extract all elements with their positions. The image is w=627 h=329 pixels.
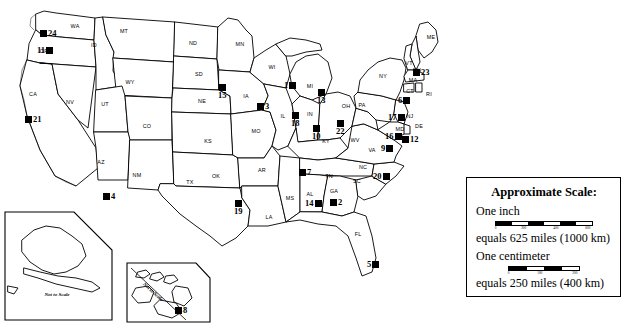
state-label-az: AZ — [97, 159, 105, 165]
marker-number: 2 — [338, 198, 342, 207]
scale-tick: 400 — [553, 226, 558, 230]
marker-square-icon — [40, 30, 47, 37]
site-marker-7[interactable]: 7 — [299, 168, 311, 177]
scale-bar-cm-ticks: 0100200 — [508, 271, 580, 275]
state-label-ia: IA — [243, 93, 249, 99]
marker-number: 18 — [291, 119, 300, 127]
site-marker-12[interactable]: 12 — [402, 135, 419, 144]
state-label-nj: NJ — [407, 113, 414, 119]
marker-number: 16 — [385, 132, 394, 141]
marker-number: 15 — [218, 91, 227, 99]
site-marker-11[interactable]: 11 — [37, 46, 53, 55]
site-marker-13[interactable]: 13 — [317, 89, 326, 104]
state-label-pa: PA — [358, 102, 365, 108]
marker-square-icon — [46, 47, 53, 54]
state-label-sc: SC — [353, 178, 361, 184]
site-marker-19[interactable]: 19 — [234, 200, 243, 215]
marker-number: 23 — [421, 68, 430, 77]
state-label-il: IL — [281, 113, 286, 119]
state-label-vt: VT — [405, 60, 413, 66]
state-label-ms: MS — [286, 195, 295, 201]
marker-number: 21 — [33, 115, 42, 124]
site-marker-14[interactable]: 14 — [305, 199, 322, 208]
state-label-wv: WV — [350, 137, 359, 143]
marker-number: 6 — [398, 96, 402, 105]
state-label-ks: KS — [204, 138, 212, 144]
site-marker-3[interactable]: 3 — [257, 102, 269, 111]
site-marker-21[interactable]: 21 — [25, 115, 42, 124]
scale-bar-inch: 0200400600 — [495, 221, 593, 230]
map-figure: WAORCANVIDMTWYUTAZNMCONDSDNEKSOKTXMNIAMO… — [0, 0, 627, 329]
site-marker-5[interactable]: 5 — [367, 260, 379, 269]
state-label-ma: MA — [409, 77, 418, 83]
scale-tick: 200 — [521, 226, 526, 230]
site-marker-16[interactable]: 16 — [385, 132, 402, 141]
marker-number: 7 — [307, 168, 311, 177]
site-marker-9[interactable]: 9 — [381, 144, 393, 153]
state-label-nd: ND — [189, 40, 197, 46]
state-label-nc: NC — [359, 164, 367, 170]
state-label-ar: AR — [258, 167, 266, 173]
marker-square-icon — [372, 261, 379, 268]
state-label-la: LA — [266, 214, 273, 220]
marker-square-icon — [299, 169, 306, 176]
marker-number: 17 — [388, 113, 397, 122]
hawaii-inset: Not to Scale — [127, 263, 210, 322]
scale-tick: 200 — [572, 271, 577, 275]
state-label-al: AL — [307, 191, 314, 197]
site-marker-1[interactable]: 1 — [284, 81, 296, 90]
marker-number: 24 — [48, 29, 57, 38]
site-marker-22[interactable]: 22 — [336, 120, 345, 135]
marker-square-icon — [175, 307, 182, 314]
state-label-tx: TX — [186, 179, 193, 185]
us-map-svg: WAORCANVIDMTWYUTAZNMCONDSDNEKSOKTXMNIAMO… — [0, 0, 440, 329]
marker-number: 19 — [234, 207, 243, 215]
marker-square-icon — [398, 114, 405, 121]
state-label-ut: UT — [101, 101, 109, 107]
state-label-ct: CT — [406, 88, 414, 94]
state-label-mo: MO — [251, 128, 260, 134]
marker-number: 1 — [284, 81, 288, 90]
state-label-wy: WY — [125, 79, 134, 85]
state-label-mn: MN — [236, 41, 245, 47]
state-label-nm: NM — [133, 172, 142, 178]
site-marker-24[interactable]: 24 — [40, 29, 57, 38]
alaska-note: Not to Scale — [44, 292, 71, 297]
marker-square-icon — [403, 97, 410, 104]
site-marker-20[interactable]: 20 — [373, 172, 390, 181]
site-marker-4[interactable]: 4 — [103, 192, 115, 201]
site-marker-18[interactable]: 18 — [291, 112, 300, 127]
state-label-ne: NE — [198, 98, 206, 104]
marker-number: 22 — [336, 127, 345, 135]
legend-cm-equals: equals 250 miles (400 km) — [476, 276, 612, 291]
state-label-ca: CA — [29, 91, 37, 97]
marker-square-icon — [25, 116, 32, 123]
scale-tick: 100 — [537, 271, 542, 275]
state-label-oh: OH — [342, 103, 351, 109]
scale-bar-cm: 0100200 — [508, 266, 580, 275]
state-label-ri: RI — [426, 91, 432, 97]
us-map: WAORCANVIDMTWYUTAZNMCONDSDNEKSOKTXMNIAMO… — [0, 0, 440, 329]
state-label-wa: WA — [71, 23, 80, 29]
site-marker-6[interactable]: 6 — [398, 96, 410, 105]
site-marker-23[interactable]: 23 — [413, 68, 430, 77]
site-marker-17[interactable]: 17 — [388, 113, 405, 122]
marker-number: 10 — [312, 132, 321, 140]
state-label-ky: KY — [322, 138, 330, 144]
marker-square-icon — [330, 199, 337, 206]
marker-number: 13 — [317, 96, 326, 104]
marker-number: 4 — [111, 192, 115, 201]
marker-square-icon — [315, 200, 322, 207]
marker-square-icon — [413, 69, 420, 76]
legend-inch-label: One inch — [476, 204, 612, 219]
site-marker-2[interactable]: 2 — [330, 198, 342, 207]
site-marker-15[interactable]: 15 — [218, 84, 227, 99]
site-marker-10[interactable]: 10 — [312, 125, 321, 140]
legend-inch-equals: equals 625 miles (1000 km) — [476, 231, 612, 246]
marker-number: 20 — [373, 172, 382, 181]
scale-tick: 0 — [508, 271, 510, 275]
site-marker-8[interactable]: 8 — [175, 306, 187, 315]
state-label-id: ID — [91, 42, 97, 48]
state-label-ok: OK — [212, 173, 220, 179]
scale-tick: 0 — [495, 226, 497, 230]
